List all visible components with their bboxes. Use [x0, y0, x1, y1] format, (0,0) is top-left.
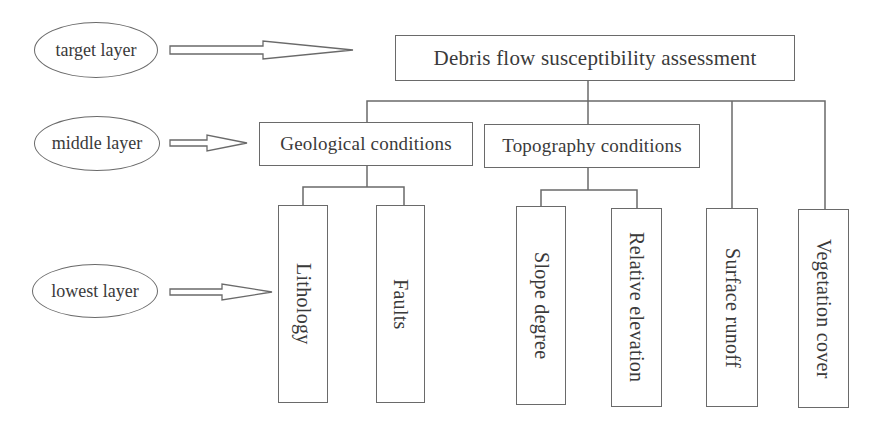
arrow-lowest [170, 284, 272, 300]
layer-label-middle: middle layer [34, 116, 160, 171]
middle-node-geological: Geological conditions [259, 122, 473, 166]
middle-node-label: Topography conditions [502, 135, 682, 157]
target-node-label: Debris flow susceptibility assessment [434, 46, 757, 71]
middle-node-topography: Topography conditions [484, 124, 700, 168]
lowest-node-faults: Faults [376, 205, 425, 403]
lowest-node-lithology: Lithology [278, 205, 328, 403]
lowest-node-vegetation-cover: Vegetation cover [798, 209, 849, 408]
lowest-node-label: Relative elevation [625, 232, 648, 382]
layer-label-text: lowest layer [51, 281, 138, 302]
target-node: Debris flow susceptibility assessment [395, 35, 795, 81]
lowest-node-label: Slope degree [530, 252, 553, 359]
layer-label-text: middle layer [52, 133, 142, 154]
middle-node-label: Geological conditions [280, 133, 451, 155]
layer-label-lowest: lowest layer [32, 264, 158, 318]
lowest-node-label: Vegetation cover [812, 239, 835, 379]
arrow-target [170, 41, 353, 59]
arrow-middle [170, 135, 247, 151]
lowest-node-surface-runoff: Surface runoff [706, 208, 758, 407]
layer-label-target: target layer [34, 22, 158, 78]
lowest-node-label: Lithology [292, 263, 315, 345]
lowest-node-label: Faults [389, 279, 412, 330]
lowest-node-relative-elevation: Relative elevation [611, 208, 662, 407]
lowest-node-label: Surface runoff [721, 248, 744, 368]
layer-label-text: target layer [55, 40, 136, 61]
lowest-node-slope-degree: Slope degree [516, 206, 566, 405]
